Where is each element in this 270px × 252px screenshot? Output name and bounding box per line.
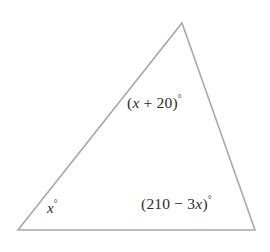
- bottom-right-constant: 210: [146, 195, 170, 212]
- bottom-left-variable: x: [47, 200, 54, 216]
- triangle-figure: (x + 20)° (210 − 3x)° x°: [0, 0, 270, 252]
- angle-label-bottom-left: x°: [47, 201, 58, 216]
- angle-label-bottom-right: (210 − 3x)°: [141, 196, 212, 212]
- apex-operator: +: [139, 94, 156, 111]
- angle-label-apex: (x + 20)°: [127, 95, 182, 111]
- apex-constant: 20: [157, 94, 173, 111]
- bottom-right-operator: −: [170, 195, 187, 212]
- apex-degree-symbol: °: [178, 93, 182, 104]
- bottom-left-degree-symbol: °: [54, 199, 58, 209]
- triangle-shape: [0, 0, 270, 252]
- bottom-right-degree-symbol: °: [208, 194, 212, 205]
